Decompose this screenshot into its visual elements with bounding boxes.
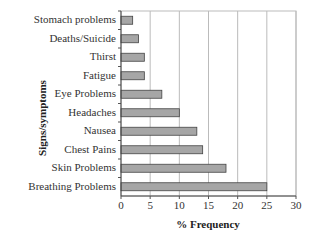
x-tick-label: 30 bbox=[291, 199, 302, 211]
bar bbox=[121, 127, 197, 135]
category-label: Deaths/Suicide bbox=[49, 32, 116, 44]
bar bbox=[121, 164, 226, 172]
category-label: Stomach problems bbox=[34, 13, 116, 25]
bar bbox=[121, 90, 162, 98]
category-label: Skin Problems bbox=[52, 161, 116, 173]
bar bbox=[121, 72, 144, 80]
x-tick-label: 0 bbox=[118, 199, 124, 211]
x-tick-label: 20 bbox=[232, 199, 243, 211]
bar bbox=[121, 35, 139, 43]
category-label: Fatigue bbox=[83, 69, 116, 81]
y-axis-label: Signs/symptoms bbox=[36, 80, 48, 156]
x-tick-label: 15 bbox=[203, 199, 214, 211]
bar bbox=[121, 183, 267, 191]
category-label: Chest Pains bbox=[64, 143, 116, 155]
bar bbox=[121, 109, 179, 117]
category-label: Eye Problems bbox=[55, 87, 116, 99]
x-tick-label: 25 bbox=[261, 199, 272, 211]
bar bbox=[121, 16, 133, 24]
category-label: Thirst bbox=[90, 50, 116, 62]
category-label: Nausea bbox=[84, 124, 116, 136]
bar-chart: Signs/symptoms % Frequency Stomach probl… bbox=[0, 0, 314, 238]
bar bbox=[121, 146, 203, 154]
x-axis-label: % Frequency bbox=[176, 218, 240, 230]
x-tick-label: 10 bbox=[174, 199, 185, 211]
bar bbox=[121, 53, 144, 61]
x-tick-label: 5 bbox=[147, 199, 153, 211]
category-label: Headaches bbox=[68, 106, 116, 118]
category-label: Breathing Problems bbox=[28, 180, 116, 192]
